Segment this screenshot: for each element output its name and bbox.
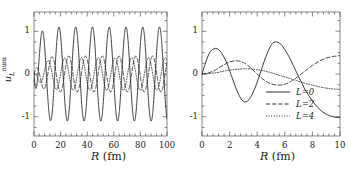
y-tick-label: 1 [8,25,30,35]
legend-line-sample [265,99,291,109]
x-tick-label: 8 [297,140,327,150]
legend-label: L=2 [296,99,314,109]
x-tick-label: 40 [72,140,102,150]
legend-item: L=4 [265,110,314,122]
y-tick-label: 1 [176,25,198,35]
x-tick-label: 6 [270,140,300,150]
legend-line-sample [265,87,291,97]
x-tick-label: 10 [325,140,350,150]
legend: L=0L=2L=4 [265,86,314,122]
x-axis-label-left: R (fm) [46,150,171,163]
x-tick-label: 20 [46,140,76,150]
x-tick-label: 60 [99,140,129,150]
figure-root: R (fm) uLnum 02040608010010-1 R (fm) L=0… [0,0,350,178]
x-tick-label: 0 [19,140,49,150]
x-tick-label: 2 [215,140,245,150]
y-tick-label: -1 [176,111,198,121]
x-tick-label: 0 [187,140,217,150]
legend-label: L=0 [296,87,314,97]
legend-item: L=2 [265,98,314,110]
x-tick-label: 80 [125,140,155,150]
plot-panel-right: R (fm) L=0L=2L=4 024681010-1 [175,0,350,178]
legend-label: L=4 [296,111,314,121]
legend-item: L=0 [265,86,314,98]
y-tick-label: 0 [8,68,30,78]
x-tick-label: 4 [242,140,272,150]
plot-panel-left: R (fm) uLnum 02040608010010-1 [0,0,175,178]
x-axis-label-right: R (fm) [215,150,340,163]
y-tick-label: 0 [176,68,198,78]
x-axis-unit-right: (fm) [272,150,295,163]
y-tick-label: -1 [8,111,30,121]
x-axis-unit-left: (fm) [103,150,126,163]
legend-line-sample [265,111,291,121]
